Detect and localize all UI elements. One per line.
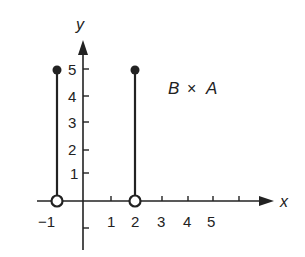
y-axis-label: y [75,16,85,33]
y-tick-labels: 5 4 3 2 1 [68,61,78,182]
x-tick-label: 4 [183,213,191,230]
open-endpoint-icon [130,196,141,207]
closed-endpoint-icon [131,66,140,75]
x-tick-label: −1 [38,213,55,230]
x-axis-label: x [279,193,289,210]
x-tick-label: 3 [157,213,165,230]
set-b-label: B [168,79,179,98]
y-ticks [83,69,89,228]
set-a-label: A [205,79,217,98]
diagram-canvas: x y −1 1 2 3 4 5 [0,0,305,257]
segment-x-neg1 [52,66,63,207]
open-endpoint-icon [52,196,63,207]
x-tick-label: 1 [107,213,115,230]
y-tick-label: 5 [68,61,76,78]
y-tick-label: 4 [68,88,76,105]
y-tick-label: 1 [70,165,78,182]
x-axis-arrow-icon [259,196,274,206]
set-product-label: B × A [168,79,217,98]
y-axis-arrow-icon [78,40,88,55]
x-tick-label: 2 [131,213,139,230]
times-operator: × [187,80,196,97]
cartesian-diagram: x y −1 1 2 3 4 5 [0,0,305,257]
y-tick-label: 3 [68,114,76,131]
x-tick-label: 5 [207,213,215,230]
x-tick-labels: −1 1 2 3 4 5 [38,213,215,230]
y-tick-label: 2 [68,141,76,158]
segment-x-2 [130,66,141,207]
closed-endpoint-icon [53,66,62,75]
